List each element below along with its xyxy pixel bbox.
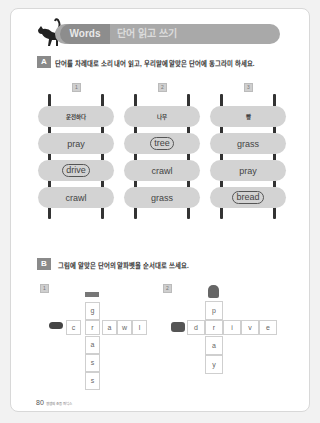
puzzle-cell[interactable]: d — [187, 320, 205, 335]
puzzle-cell[interactable]: s — [85, 372, 100, 390]
page-footer: 80영쌤의 초등 파닉스 — [36, 399, 72, 406]
puzzle-cell[interactable]: g — [85, 302, 100, 320]
word-option[interactable]: pray — [38, 133, 114, 154]
word-option[interactable]: grass — [210, 133, 286, 154]
puzzle-cell[interactable]: a — [205, 336, 223, 355]
ladder-number: 1 — [72, 83, 81, 92]
ladder-1: 운전하다 pray drive crawl — [38, 94, 114, 219]
section-b-badge: B — [37, 258, 51, 270]
section-b-instruction: 그림에 알맞은 단어의 알파벳을 순서대로 쓰세요. — [58, 261, 189, 270]
puzzle-cell[interactable]: l — [132, 320, 147, 335]
section-a-badge: A — [37, 56, 51, 68]
header-words-label: Words — [60, 24, 110, 44]
ladder-korean: 나무 — [124, 106, 200, 127]
ladder-2: 나무 tree crawl grass — [124, 94, 200, 219]
car-driving-picture — [171, 322, 185, 332]
word-option-circled[interactable]: drive — [38, 160, 114, 181]
word-option[interactable]: grass — [124, 187, 200, 208]
puzzle-cell[interactable]: i — [223, 320, 241, 335]
puzzle-cell[interactable]: p — [205, 301, 223, 320]
puzzle-cell[interactable]: w — [117, 320, 132, 335]
puzzle-cell[interactable]: r — [85, 320, 100, 335]
ladder-korean: 운전하다 — [38, 106, 114, 127]
puzzle-number: 2 — [163, 284, 172, 293]
ladder-number: 2 — [158, 83, 167, 92]
puzzle-number: 1 — [40, 284, 49, 293]
page-number: 80 — [36, 399, 44, 406]
ladder-korean: 빵 — [210, 106, 286, 127]
word-option[interactable]: crawl — [38, 187, 114, 208]
ladder-3: 빵 grass pray bread — [210, 94, 286, 219]
section-a-instruction: 단어를 차례대로 소리 내어 읽고, 우리말에 알맞은 단어에 동그라미 하세요… — [55, 59, 255, 68]
word-option[interactable]: crawl — [124, 160, 200, 181]
puzzle-cell[interactable]: y — [205, 355, 223, 374]
grass-picture — [85, 292, 99, 297]
puzzle-cell[interactable]: s — [85, 354, 100, 372]
header-title: 단어 읽고 쓰기 — [117, 24, 177, 44]
puzzle-cell[interactable]: c — [66, 320, 81, 335]
person-praying-picture — [208, 285, 219, 298]
puzzle-cell[interactable]: a — [102, 320, 117, 335]
baby-crawl-picture — [49, 322, 63, 329]
puzzle-cell[interactable]: r — [205, 320, 223, 335]
word-option-circled[interactable]: bread — [210, 187, 286, 208]
book-title: 영쌤의 초등 파닉스 — [46, 402, 72, 406]
puzzle-cell[interactable]: a — [85, 336, 100, 354]
puzzle-cell[interactable]: e — [259, 320, 277, 335]
word-option[interactable]: pray — [210, 160, 286, 181]
word-option-circled[interactable]: tree — [124, 133, 200, 154]
puzzle-cell[interactable]: v — [241, 320, 259, 335]
ladder-number: 3 — [244, 83, 253, 92]
